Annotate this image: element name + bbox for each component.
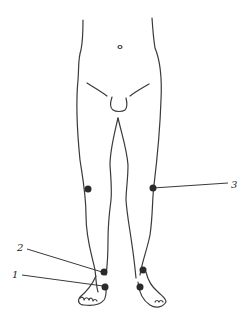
point-knee-left (85, 186, 92, 193)
right-toes (155, 301, 163, 303)
genitals (111, 97, 127, 112)
torso-right-contour (140, 18, 161, 275)
navel (118, 46, 122, 49)
left-toes (80, 297, 97, 301)
point-ankle-right-lower (137, 284, 144, 291)
label-1: 1 (12, 269, 18, 280)
groin-right (130, 84, 149, 96)
leader-line-1 (22, 275, 103, 286)
point-ankle-right-upper (140, 267, 147, 274)
point-ankle-left-upper (101, 269, 108, 276)
leader-line-3 (153, 183, 228, 188)
label-2: 2 (16, 242, 23, 253)
point-ankle-left-lower (102, 284, 109, 291)
leg-diagram: 3 2 1 (0, 0, 252, 326)
groin-left (87, 83, 107, 96)
point-knee-right (150, 185, 157, 192)
torso-left-contour (77, 20, 98, 292)
left-foot (79, 276, 107, 305)
label-3: 3 (231, 179, 237, 190)
inner-left-leg (106, 118, 118, 275)
inner-right-leg (118, 118, 136, 278)
